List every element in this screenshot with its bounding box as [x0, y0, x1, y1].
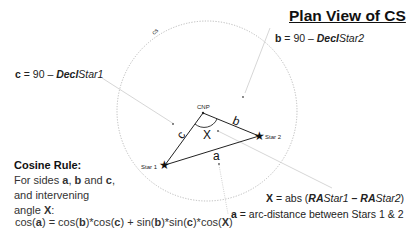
side-c-label: c	[174, 129, 189, 142]
star-2-label: Star 2	[265, 134, 282, 140]
x-definition: X = abs (RAStar1 – RAStar2)	[266, 192, 404, 204]
x-def-close: )	[401, 192, 405, 204]
star-2-icon: ★	[254, 129, 265, 143]
leader-line-b	[245, 28, 270, 93]
x-def-ra1: RA	[308, 192, 323, 204]
cosine-rule-line1: For sides a, b and c,	[14, 173, 115, 188]
circle-label: cs	[151, 27, 159, 35]
leader-dot-b	[242, 96, 244, 98]
cosine-rule-block: Cosine Rule: For sides a, b and c, and i…	[14, 158, 115, 218]
star-1-label: Star 1	[141, 164, 158, 170]
cosine-rule-line2: and intervening	[14, 188, 115, 203]
leader-line-c	[102, 78, 174, 124]
leader-dot-x	[217, 130, 219, 132]
leader-dot-c	[172, 123, 174, 125]
cnp-label: CNP	[197, 104, 210, 110]
angle-x-label: X	[203, 128, 211, 142]
c-def-decl: Decl	[56, 68, 78, 80]
x-def-star1: Star1	[324, 192, 349, 204]
side-a-line	[165, 136, 259, 165]
c-definition: c = 90 – DeclStar1	[15, 68, 103, 80]
a-definition: a = arc-distance between Stars 1 & 2	[231, 208, 403, 220]
side-b-label: b	[231, 113, 243, 129]
leader-line-a	[219, 165, 228, 214]
side-a-label: a	[213, 149, 220, 163]
c-def-star: Star1	[78, 68, 103, 80]
b-def-eq: = 90 –	[281, 32, 316, 44]
page-title: Plan View of CS	[289, 7, 406, 25]
c-def-eq: = 90 –	[21, 68, 56, 80]
x-def-eq: = abs (	[273, 192, 308, 204]
celestial-sphere-circle	[117, 21, 297, 201]
cosine-rule-heading: Cosine Rule:	[14, 158, 115, 173]
cnp-point	[202, 112, 204, 114]
star-1-icon: ★	[159, 158, 170, 172]
leader-dot-a	[218, 163, 220, 165]
b-def-star: Star2	[339, 32, 364, 44]
x-def-star2: Star2	[375, 192, 400, 204]
cosine-rule-formula: cos(a) = cos(b)*cos(c) + sin(b)*sin(c)*c…	[15, 216, 233, 228]
x-def-ra2: RA	[360, 192, 375, 204]
a-def-eq: = arc-distance between Stars 1 & 2	[237, 208, 404, 220]
x-def-var: X	[266, 192, 273, 204]
x-def-minus: –	[349, 192, 361, 204]
b-def-decl: Decl	[317, 32, 339, 44]
b-definition: b = 90 – DeclStar2	[275, 32, 364, 44]
